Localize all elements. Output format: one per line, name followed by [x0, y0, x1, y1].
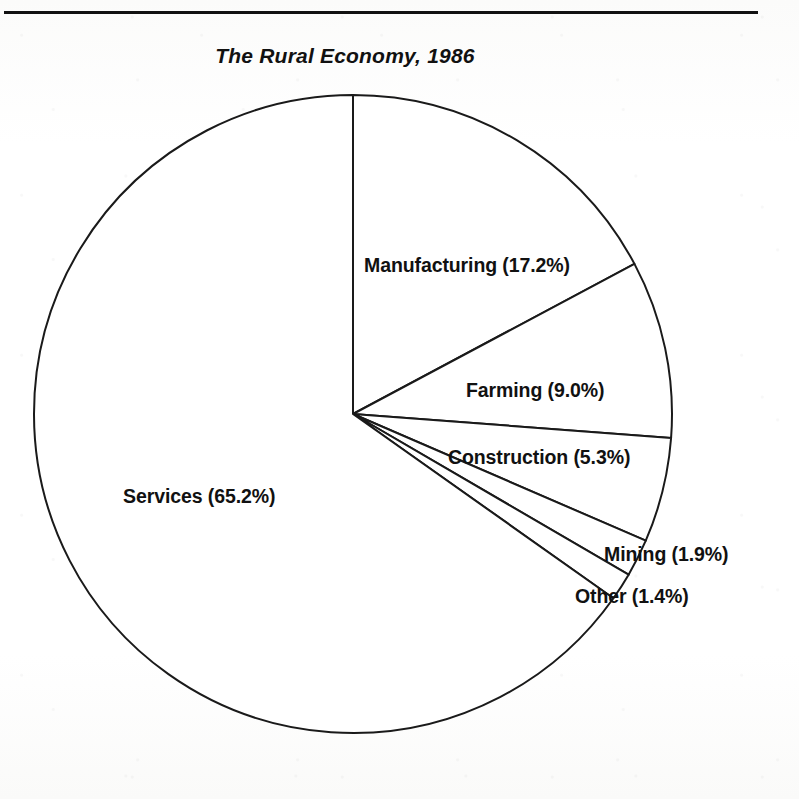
pie-chart-svg: Manufacturing (17.2%)Farming (9.0%)Const…	[0, 0, 799, 799]
slice-label-mining: Mining (1.9%)	[604, 543, 728, 566]
slice-label-construction: Construction (5.3%)	[448, 446, 630, 469]
slice-label-farming: Farming (9.0%)	[466, 379, 604, 402]
pie-chart: Manufacturing (17.2%)Farming (9.0%)Const…	[0, 0, 799, 799]
pie-slices-group: Manufacturing (17.2%)Farming (9.0%)Const…	[34, 95, 672, 733]
slice-label-services: Services (65.2%)	[123, 485, 275, 508]
slice-label-manufacturing: Manufacturing (17.2%)	[364, 254, 570, 277]
slice-label-other: Other (1.4%)	[575, 585, 689, 608]
page-canvas: The Rural Economy, 1986 Manufacturing (1…	[0, 0, 799, 799]
